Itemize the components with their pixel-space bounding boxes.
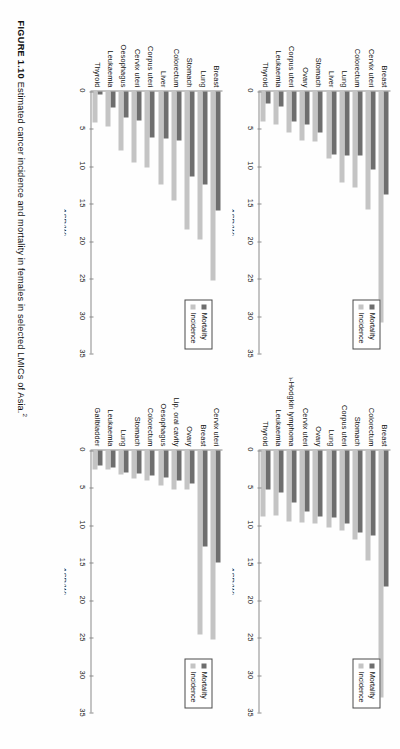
bar-mortality: [123, 450, 128, 472]
x-tick-labels-1: 05101520253035: [242, 90, 254, 353]
x-tick-label: 0: [77, 447, 86, 451]
bar-mortality: [344, 91, 349, 155]
x-axis-tick: [257, 487, 261, 488]
bar-mortality: [215, 450, 220, 562]
bar-incidence: [312, 450, 317, 523]
bar-group: [130, 91, 143, 353]
bar-group: [169, 450, 182, 712]
bar-incidence: [326, 91, 331, 158]
bar-incidence: [286, 450, 291, 521]
bar-incidence: [210, 91, 215, 280]
x-tick-label: 25: [245, 273, 254, 282]
bar-group: [284, 450, 297, 712]
x-axis-tick: [89, 450, 93, 451]
x-tick-label: 0: [245, 88, 254, 92]
legend-item-mortality: Mortality: [199, 304, 208, 343]
x-axis-tick: [257, 712, 261, 713]
bar-mortality: [123, 91, 128, 117]
x-tick-label: 30: [77, 670, 86, 679]
bar-group: [284, 91, 297, 353]
x-axis-tick: [257, 128, 261, 129]
category-label: Lung: [337, 70, 350, 90]
bar-mortality: [317, 450, 322, 516]
x-tick-label: 30: [77, 311, 86, 320]
x-tick-label: 5: [77, 125, 86, 129]
bar-mortality: [357, 91, 362, 155]
x-tick-label: 0: [245, 447, 254, 451]
bar-incidence: [158, 450, 163, 485]
category-labels-1: BreastCervix uteriColorectumLungLiverSto…: [258, 18, 390, 90]
x-axis-ticks-1: [257, 91, 262, 353]
legend-label-mortality: Mortality: [199, 671, 208, 698]
x-tick-label: 35: [245, 708, 254, 717]
x-tick-labels-3: 05101520253035: [74, 90, 86, 353]
bar-incidence: [339, 450, 344, 530]
figure-label: FIGURE 1.10: [16, 20, 26, 78]
legend-4: Mortality Incidence: [184, 658, 212, 708]
bar-group: [298, 91, 311, 353]
x-tick-label: 5: [77, 484, 86, 488]
x-axis-tick: [257, 316, 261, 317]
bar-incidence: [286, 91, 291, 132]
bar-incidence: [131, 450, 136, 478]
x-axis-tick: [257, 525, 261, 526]
bar-group: [311, 450, 324, 712]
x-tick-label: 20: [77, 595, 86, 604]
x-axis-tick: [257, 353, 261, 354]
legend-swatch-incidence-icon: [190, 663, 195, 668]
category-label: Lip, oral cavity: [169, 397, 182, 449]
bar-mortality: [189, 450, 194, 483]
bar-incidence: [144, 450, 149, 480]
category-label: Thyroid: [258, 421, 271, 449]
x-tick-labels-4: 05101520253035: [74, 449, 86, 712]
legend-label-incidence: Incidence: [188, 312, 197, 343]
bar-mortality: [278, 91, 283, 106]
bar-mortality: [97, 91, 102, 94]
category-label: Lung: [196, 70, 209, 90]
bar-incidence: [352, 450, 357, 539]
x-axis-tick: [89, 316, 93, 317]
category-label: Breast: [377, 424, 390, 449]
bar-mortality: [176, 91, 181, 140]
x-tick-label: 15: [77, 557, 86, 566]
bar-incidence: [158, 91, 163, 184]
legend-label-mortality: Mortality: [367, 671, 376, 698]
category-label: Leukaemia: [271, 50, 284, 90]
x-tick-label: 15: [245, 557, 254, 566]
bar-mortality: [110, 91, 115, 107]
bar-incidence: [273, 450, 278, 515]
bar-group: [271, 450, 284, 712]
x-axis-tick: [257, 562, 261, 563]
x-axis-tick: [89, 637, 93, 638]
x-tick-label: 10: [245, 520, 254, 529]
x-tick-label: 10: [245, 161, 254, 170]
legend-swatch-mortality-icon: [369, 663, 374, 668]
bar-mortality: [304, 450, 309, 511]
legend-label-mortality: Mortality: [367, 312, 376, 339]
bar-mortality: [136, 450, 141, 473]
bar-incidence: [326, 450, 331, 527]
x-axis-ticks-4: [89, 450, 94, 712]
legend-item-incidence: Incidence: [356, 304, 365, 343]
x-tick-label: 0: [77, 88, 86, 92]
x-tick-label: 30: [245, 311, 254, 320]
x-tick-label: 10: [77, 520, 86, 529]
bar-mortality: [110, 450, 115, 467]
category-label: Leukaemia: [271, 409, 284, 449]
category-label: Corpus uteri: [284, 46, 297, 90]
category-label: Colorectum: [364, 407, 377, 449]
x-axis-tick: [257, 278, 261, 279]
x-axis-tick: [89, 128, 93, 129]
x-tick-label: 5: [245, 484, 254, 488]
legend-swatch-incidence-icon: [190, 304, 195, 309]
x-tick-labels-2: 05101520253035: [242, 449, 254, 712]
x-axis-tick: [89, 562, 93, 563]
x-axis-tick: [257, 91, 261, 92]
category-label: Colorectum: [143, 407, 156, 449]
x-tick-label: 20: [245, 595, 254, 604]
scanned-page: BreastCervix uteriColorectumLungLiverSto…: [0, 0, 400, 749]
bar-mortality: [370, 91, 375, 169]
x-axis-tick: [257, 675, 261, 676]
x-tick-label: 25: [77, 273, 86, 282]
bar-incidence: [118, 91, 123, 150]
